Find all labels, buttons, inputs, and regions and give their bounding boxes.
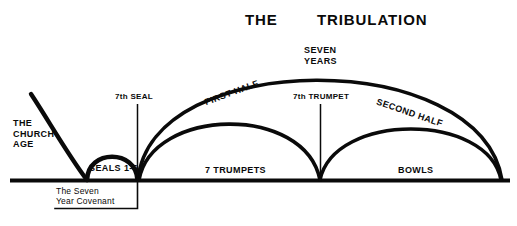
label-seals: SEALS 1-6 — [89, 163, 138, 174]
label-church-age: THE CHURCH AGE — [13, 118, 54, 150]
title-the: THE — [245, 11, 278, 29]
label-seven-year-covenant: The Seven Year Covenant — [56, 186, 115, 206]
tribulation-timeline-diagram: THE TRIBULATION THE CHURCH AGE SEALS 1-6… — [0, 0, 517, 226]
label-seven-years: SEVEN YEARS — [304, 45, 337, 66]
title-tribulation: TRIBULATION — [317, 11, 427, 29]
label-bowls: BOWLS — [398, 165, 434, 176]
label-seventh-trumpet: 7th TRUMPET — [293, 92, 349, 101]
label-seventh-seal: 7th SEAL — [115, 92, 153, 101]
label-seven-trumpets: 7 TRUMPETS — [205, 165, 266, 176]
